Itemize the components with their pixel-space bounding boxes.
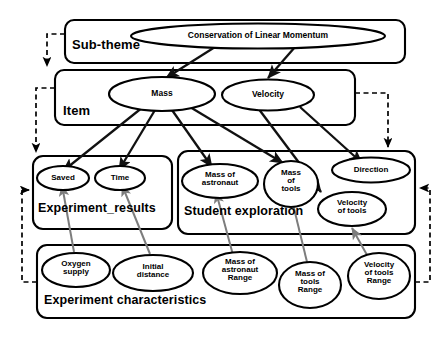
node-mass-of-astronaut[interactable] [182, 164, 258, 198]
dashed-edge-item-experiment-results [36, 88, 55, 152]
node-velocity-of-tools-range[interactable] [348, 253, 410, 299]
node-saved[interactable] [37, 166, 89, 190]
dashed-edge-item-student-exploration [355, 93, 388, 147]
node-velocity[interactable] [222, 80, 314, 111]
node-direction[interactable] [332, 158, 410, 183]
node-time[interactable] [95, 166, 145, 190]
node-mass[interactable] [109, 77, 215, 111]
dashed-edge-subtheme-item [47, 34, 65, 66]
node-initial-distance[interactable] [113, 255, 193, 291]
gray-edge-initial-distance-time [122, 185, 150, 254]
node-mass-of-astronaut-range[interactable] [203, 252, 277, 294]
solid-edge-mass-saved [63, 107, 143, 171]
node-conservation[interactable] [131, 24, 385, 49]
node-oxygen-supply[interactable] [42, 253, 110, 287]
node-velocity-of-tools[interactable] [318, 192, 386, 226]
diagram-canvas: Sub-theme Item Experiment_results Studen… [0, 0, 445, 338]
solid-edge-velocity-direction [300, 107, 362, 163]
solid-edge-mass-time [119, 110, 155, 170]
diagram-svg [0, 0, 445, 338]
node-mass-of-tools-range[interactable] [279, 262, 341, 308]
node-mass-of-tools[interactable] [264, 161, 318, 207]
gray-edge-oxygen-saved [62, 185, 74, 252]
dashed-edge-characteristics-results [22, 190, 37, 282]
gray-edge-velocity-tools-range [352, 228, 367, 255]
dashed-edge-characteristics-exploration [415, 188, 430, 282]
